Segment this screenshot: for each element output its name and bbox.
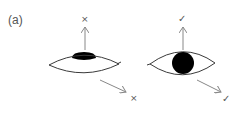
left-eye: × × xyxy=(49,14,138,103)
eye-diagram: × × ✓ ✓ xyxy=(0,0,236,113)
right-pupil xyxy=(172,52,194,74)
right-up-check-icon: ✓ xyxy=(178,13,186,24)
right-diagonal-check-icon: ✓ xyxy=(222,93,230,104)
right-eye: ✓ ✓ xyxy=(147,13,230,104)
left-up-cross-icon: × xyxy=(81,14,89,24)
left-diagonal-cross-icon: × xyxy=(130,93,138,103)
left-diagonal-arrow xyxy=(100,80,126,92)
right-diagonal-arrow xyxy=(197,80,221,92)
